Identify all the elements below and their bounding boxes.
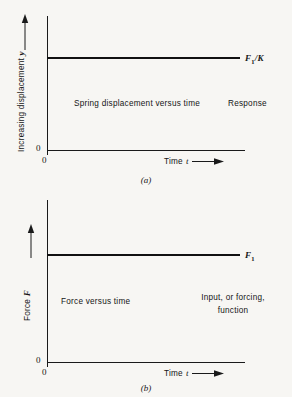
origin-tick-b [47,360,48,367]
data-line-a [47,57,240,59]
origin-tick-a [47,148,48,155]
data-line-label-b: F1 [245,249,255,264]
y-axis-label-a-symbol: y [16,51,26,55]
y-axis-label-arrow-b-icon [26,224,36,258]
data-line-b [47,254,240,256]
y-axis-label-b: Force F [22,290,32,321]
chart-side-text-b: Input, or forcing, function [185,292,281,317]
chart-side-text-b-line1: Input, or forcing, [185,292,281,305]
y-axis-label-b-text: Force [23,299,32,321]
data-line-label-a: F1/K [245,52,264,67]
data-line-label-b-sub: 1 [251,255,255,262]
panel-caption-a: (a) [126,175,166,185]
chart-panel-a: Increasing displacement y 0 0 F1/K Sprin… [0,0,292,196]
y-axis-zero-a: 0 [36,143,41,153]
x-axis-label-b-text: Time [164,369,183,378]
x-axis-label-b-symbol: t [186,368,189,378]
y-axis-label-a: Increasing displacement y [16,51,26,152]
panel-caption-b: (b) [126,383,166,393]
x-axis-label-a-text: Time [164,157,183,166]
y-axis-line-a [47,16,48,151]
x-axis-label-b: Time t [164,368,224,378]
x-axis-label-arrow-a-icon [192,157,224,166]
figure-step-response: Increasing displacement y 0 0 F1/K Sprin… [0,0,292,397]
y-axis-label-arrow-a-icon [20,14,30,50]
y-axis-line-b [47,200,48,363]
data-line-label-a-tail: /K [255,53,264,63]
chart-side-text-b-line2: function [185,305,281,318]
chart-side-text-a: Response [228,98,267,111]
chart-body-text-b: Force versus time [61,296,130,309]
x-axis-origin-zero-b: 0 [42,367,47,377]
x-axis-line-a [47,150,245,151]
chart-panel-b: Force F 0 0 F1 Force versus time Input, … [0,196,292,397]
x-axis-label-arrow-b-icon [192,369,224,378]
x-axis-label-a: Time t [164,156,224,166]
y-axis-label-a-text: Increasing displacement [17,58,26,152]
x-axis-line-b [47,362,245,363]
y-axis-zero-b: 0 [36,355,41,365]
chart-body-text-a: Spring displacement versus time [74,98,200,111]
x-axis-label-a-symbol: t [186,156,189,166]
x-axis-origin-zero-a: 0 [42,155,47,165]
y-axis-label-b-symbol: F [22,290,32,296]
